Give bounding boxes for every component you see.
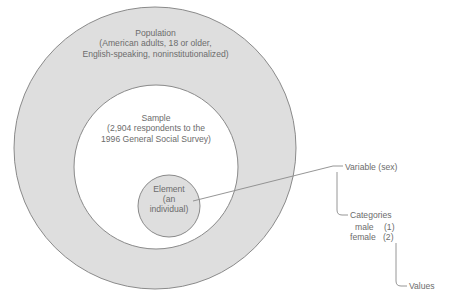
population-label-line3: English-speaking, noninstitutionalized): [82, 49, 228, 59]
figure-canvas: Population(American adults, 18 or older,…: [0, 0, 455, 305]
category-male-name: male: [355, 222, 374, 232]
category-female-name: female: [350, 232, 376, 242]
element-label: Element(anindividual): [139, 184, 199, 215]
element-label-line2: (an: [163, 194, 175, 204]
population-label-line1: Population: [135, 28, 176, 38]
values-bracket: [396, 243, 407, 286]
population-label-line2: (American adults, 18 or older,: [99, 38, 211, 48]
population-label: Population(American adults, 18 or older,…: [0, 28, 311, 59]
element-label-line3: individual): [150, 204, 189, 214]
variable-label: Variable (sex): [345, 162, 397, 172]
category-male-code: (1): [384, 222, 395, 232]
sample-label: Sample(2,904 respondents to the1996 Gene…: [26, 113, 286, 144]
sample-label-line3: 1996 General Social Survey): [101, 134, 211, 144]
element-label-line1: Element: [153, 184, 185, 194]
sample-label-line1: Sample: [141, 113, 170, 123]
categories-bracket: [337, 172, 348, 215]
values-label: Values: [409, 281, 435, 291]
sample-label-line2: (2,904 respondents to the: [107, 123, 205, 133]
category-female-code: (2): [383, 232, 394, 242]
categories-label: Categories: [350, 210, 392, 220]
